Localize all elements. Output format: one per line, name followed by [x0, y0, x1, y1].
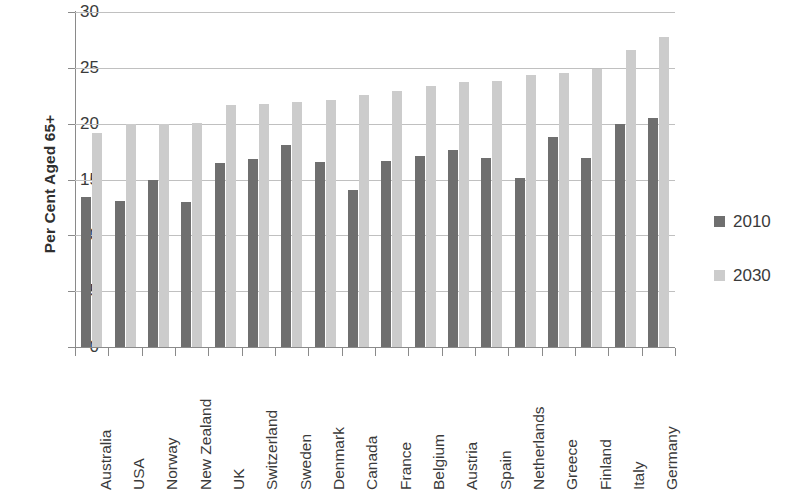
bar-2010 — [348, 190, 358, 347]
bar-group — [415, 12, 436, 347]
x-axis-label: Norway — [164, 437, 180, 490]
bar-2030 — [426, 86, 436, 347]
x-axis-label: USA — [131, 458, 147, 490]
bar-group — [315, 12, 336, 347]
bar-2030 — [192, 123, 202, 347]
bar-2030 — [559, 73, 569, 347]
bar-group — [615, 12, 636, 347]
bar-2010 — [181, 202, 191, 347]
bar-2010 — [381, 161, 391, 347]
x-axis-ticks — [75, 348, 675, 357]
x-tick-mark — [675, 348, 676, 356]
legend-swatch-icon — [714, 216, 725, 227]
bar-2030 — [392, 91, 402, 347]
x-axis-label: Denmark — [331, 427, 347, 490]
bar-2030 — [526, 75, 536, 347]
bar-2010 — [515, 178, 525, 347]
x-tick-mark — [275, 348, 276, 356]
x-tick-mark — [542, 348, 543, 356]
x-tick-mark — [342, 348, 343, 356]
bar-group — [648, 12, 669, 347]
bar-2010 — [648, 118, 658, 347]
x-tick-mark — [375, 348, 376, 356]
bar-group — [581, 12, 602, 347]
bar-group — [148, 12, 169, 347]
x-axis-label: Spain — [498, 450, 514, 490]
x-tick-mark — [308, 348, 309, 356]
x-axis-label: Finland — [598, 439, 614, 490]
bar-2030 — [459, 82, 469, 347]
bar-2010 — [315, 162, 325, 347]
x-axis-label: Greece — [564, 439, 580, 490]
x-tick-mark — [508, 348, 509, 356]
bar-group — [348, 12, 369, 347]
bar-group — [248, 12, 269, 347]
bar-2010 — [581, 158, 591, 347]
x-axis-label: Switzerland — [264, 410, 280, 490]
bar-2030 — [126, 124, 136, 347]
x-tick-mark — [142, 348, 143, 356]
bar-2010 — [248, 159, 258, 347]
bar-2030 — [92, 133, 102, 347]
x-tick-mark — [108, 348, 109, 356]
bar-group — [515, 12, 536, 347]
bar-2030 — [259, 104, 269, 347]
x-axis-label: France — [398, 442, 414, 490]
bar-group — [181, 12, 202, 347]
x-tick-mark — [208, 348, 209, 356]
legend-label: 2030 — [733, 267, 771, 284]
x-tick-mark — [75, 348, 76, 356]
bar-2010 — [215, 163, 225, 347]
legend: 20102030 — [714, 212, 789, 320]
x-tick-mark — [608, 348, 609, 356]
bar-group — [115, 12, 136, 347]
bar-2030 — [226, 105, 236, 347]
x-axis-label: Australia — [98, 430, 114, 490]
x-tick-mark — [442, 348, 443, 356]
bar-2010 — [81, 197, 91, 347]
x-tick-mark — [475, 348, 476, 356]
bar-2030 — [659, 37, 669, 347]
x-axis-label: Germany — [664, 426, 680, 490]
bar-group — [381, 12, 402, 347]
legend-item: 2010 — [714, 212, 789, 230]
bar-chart: Per Cent Aged 65+ 302520151050 Australia… — [0, 0, 789, 496]
y-axis-title: Per Cent Aged 65+ — [41, 64, 59, 304]
bar-group — [281, 12, 302, 347]
bar-group — [81, 12, 102, 347]
bar-2030 — [592, 69, 602, 347]
x-tick-mark — [408, 348, 409, 356]
bar-2030 — [359, 95, 369, 347]
x-tick-mark — [175, 348, 176, 356]
x-axis-label: Austria — [464, 442, 480, 490]
legend-label: 2010 — [733, 213, 771, 230]
bar-2030 — [292, 102, 302, 347]
bar-2030 — [492, 81, 502, 347]
legend-item: 2030 — [714, 266, 789, 284]
x-axis-label: Italy — [631, 462, 647, 490]
x-axis-label: Netherlands — [531, 406, 547, 490]
bar-2030 — [326, 100, 336, 347]
x-tick-mark — [575, 348, 576, 356]
x-axis-labels: AustraliaUSANorwayNew ZealandUKSwitzerla… — [75, 360, 675, 496]
bar-2030 — [626, 50, 636, 347]
bar-2010 — [448, 150, 458, 347]
bar-2010 — [115, 201, 125, 347]
x-axis-label: Sweden — [298, 434, 314, 490]
bar-2010 — [148, 180, 158, 348]
bar-group — [215, 12, 236, 347]
bar-group — [481, 12, 502, 347]
bar-2010 — [415, 156, 425, 347]
bar-2010 — [281, 145, 291, 347]
x-tick-mark — [242, 348, 243, 356]
bar-2010 — [481, 158, 491, 347]
x-axis-label: New Zealand — [198, 399, 214, 490]
x-axis-label: Belgium — [431, 434, 447, 490]
bar-group — [448, 12, 469, 347]
x-axis-label: UK — [231, 468, 247, 490]
x-axis-label: Canada — [364, 436, 380, 490]
plot-area — [75, 12, 675, 347]
bar-2010 — [548, 137, 558, 347]
x-tick-mark — [642, 348, 643, 356]
bar-2030 — [159, 124, 169, 347]
